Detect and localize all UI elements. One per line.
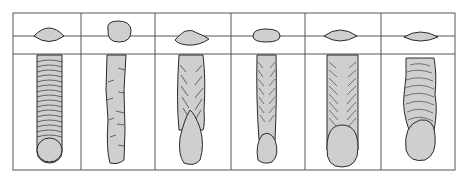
panel-4 [253,29,280,163]
panel-5 [324,30,358,167]
panel-1 [34,28,64,163]
cross-section-6 [404,32,438,41]
bead-2 [106,55,126,164]
panel-2 [106,21,131,164]
bead-6 [404,58,437,130]
cross-section-3 [175,30,209,45]
cross-section-5 [324,30,357,41]
cross-section-4 [253,29,280,42]
cross-section-1 [34,28,64,42]
cross-section-2 [108,21,131,42]
weld-bead-diagram [0,0,466,179]
panel-6 [404,32,438,161]
panel-3 [175,30,209,164]
grid-frame [13,13,455,170]
